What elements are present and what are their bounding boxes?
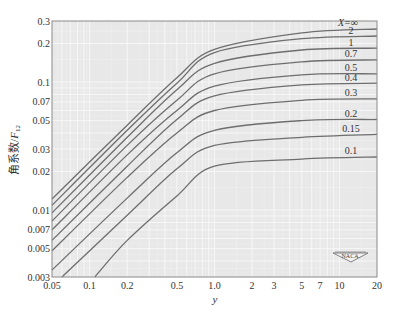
x-tick-label: 20 bbox=[372, 280, 382, 291]
curve-label: 0.1 bbox=[345, 145, 358, 156]
y-tick-label: 0.05 bbox=[33, 115, 51, 126]
y-tick-label: 0.005 bbox=[28, 243, 51, 254]
curve-label: 2 bbox=[349, 25, 354, 36]
curve-label: 0.4 bbox=[345, 72, 358, 83]
grid-lines bbox=[52, 21, 377, 277]
x-tick-label: 0.1 bbox=[83, 280, 96, 291]
view-factor-chart: 0.0030.0050.0070.010.020.030.050.070.10.… bbox=[0, 0, 395, 312]
svg-text:角系数/F12: 角系数/F12 bbox=[8, 125, 22, 175]
x-tick-label: 0.2 bbox=[121, 280, 134, 291]
y-tick-label: 0.007 bbox=[28, 224, 51, 235]
curve-label: 1 bbox=[349, 37, 354, 48]
y-tick-label: 0.01 bbox=[33, 205, 51, 216]
x-tick-label: 1.0 bbox=[208, 280, 221, 291]
x-tick-label: 5 bbox=[299, 280, 304, 291]
y-tick-label: 0.1 bbox=[38, 77, 51, 88]
y-axis-ticks: 0.0030.0050.0070.010.020.030.050.070.10.… bbox=[28, 16, 51, 283]
x-tick-label: 10 bbox=[334, 280, 344, 291]
y-tick-label: 0.02 bbox=[33, 166, 51, 177]
y-tick-label: 0.07 bbox=[33, 96, 51, 107]
x-tick-label: 0.5 bbox=[171, 280, 184, 291]
x-tick-label: 3 bbox=[272, 280, 277, 291]
curve-label: 0.3 bbox=[345, 87, 358, 98]
y-tick-label: 0.3 bbox=[38, 16, 51, 27]
x-axis-label: y bbox=[212, 293, 218, 305]
curve-label: X=∞ bbox=[337, 17, 358, 28]
curve-label: 0.2 bbox=[345, 108, 358, 119]
y-axis-label: 角系数/F12 bbox=[8, 125, 22, 175]
curve-label: 0.15 bbox=[342, 123, 360, 134]
y-tick-label: 0.03 bbox=[33, 144, 51, 155]
y-tick-label: 0.2 bbox=[38, 38, 51, 49]
x-axis-ticks: 0.050.10.20.51.023571020 bbox=[43, 280, 382, 291]
naca-label: NACA bbox=[341, 253, 359, 259]
x-tick-label: 7 bbox=[318, 280, 323, 291]
curve-label: 0.7 bbox=[345, 48, 358, 59]
y-axis-label-main: 角系数/ bbox=[8, 138, 20, 175]
x-tick-label: 2 bbox=[250, 280, 255, 291]
x-tick-label: 0.05 bbox=[43, 280, 61, 291]
y-axis-label-sub: 12 bbox=[14, 125, 22, 133]
